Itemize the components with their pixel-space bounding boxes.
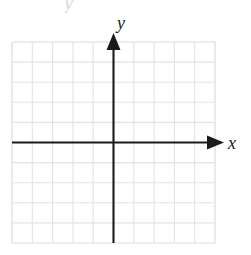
coordinate-plane-svg [0, 0, 251, 255]
y-axis [107, 33, 121, 243]
x-axis-label: x [228, 134, 236, 152]
coordinate-grid-figure: y [0, 0, 251, 255]
y-axis-label: y [117, 14, 125, 32]
x-axis [12, 136, 224, 150]
